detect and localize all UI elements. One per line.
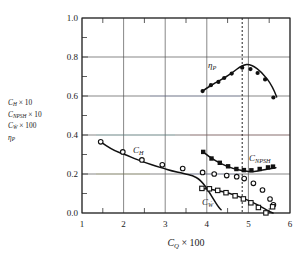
- y-tick-label: 0.2: [67, 169, 78, 179]
- y-tick-labels: 1.0 0.8 0.6 0.4 0.2 0.0: [67, 13, 79, 218]
- y-tick-label: 1.0: [67, 13, 79, 23]
- x-tick-label: 1: [80, 219, 85, 229]
- x-tick-labels: 1 2 3 4 5 6: [80, 219, 293, 229]
- plot-background: [82, 18, 290, 213]
- y-tick-label: 0.4: [67, 130, 79, 140]
- pump-performance-chart: ηP CH CNPSH CẆ 1.0 0.8 0.6 0.4 0.2 0.0 …: [0, 0, 304, 255]
- y-tick-label: 0.6: [67, 91, 79, 101]
- x-axis-title: CQ × 100: [167, 237, 204, 249]
- x-tick-label: 5: [246, 219, 251, 229]
- y-tick-label: 0.8: [67, 52, 79, 62]
- x-tick-label: 3: [163, 219, 168, 229]
- x-tick-label: 2: [121, 219, 126, 229]
- x-tick-label: 4: [205, 219, 210, 229]
- y-tick-label: 0.0: [67, 208, 79, 218]
- x-tick-label: 6: [288, 219, 293, 229]
